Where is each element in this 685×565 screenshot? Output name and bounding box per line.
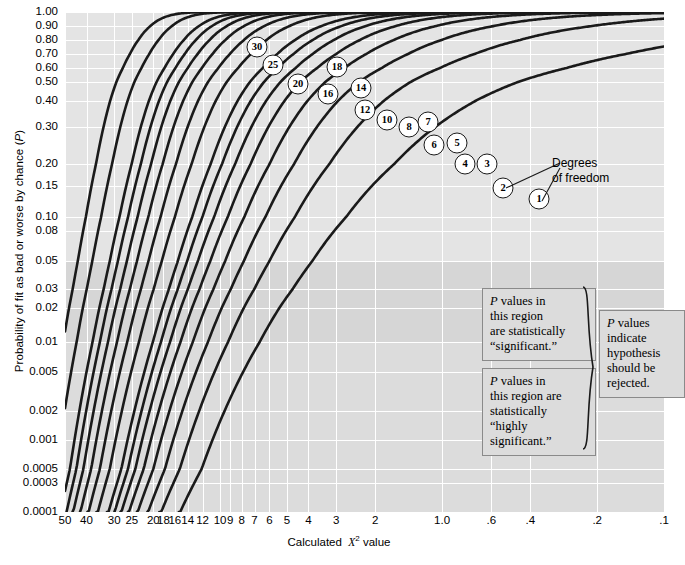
y-tick-label: 0.005 [29, 366, 58, 378]
x-tick-label: .2 [592, 514, 602, 527]
callout-significant: P values in this region are statisticall… [482, 288, 596, 361]
degrees-of-freedom-annotation: Degrees of freedom [552, 156, 609, 186]
df-bubble-18: 18 [327, 57, 348, 78]
x-tick-label: 12 [196, 514, 209, 527]
y-tick-label: 0.02 [36, 302, 58, 314]
dof-line-1: Degrees [552, 156, 609, 171]
callout-reject-line-2: hypothesis [607, 346, 677, 361]
x-tick-label: 16 [168, 514, 181, 527]
x-tick-label: 40 [80, 514, 93, 527]
callout-highly-line-1: this region are [490, 389, 588, 404]
y-tick-label: 0.90 [36, 20, 58, 32]
x-axis-tick-labels: 50403025201816141210987654321.0.6.4.2.1 [0, 514, 678, 534]
x-tick-label: 1.0 [434, 514, 450, 527]
callout-reject-line-1: indicate [607, 331, 677, 346]
callout-highly-line-0: P values in [490, 374, 588, 389]
x-tick-label: .6 [487, 514, 497, 527]
y-tick-label: 0.001 [29, 434, 58, 446]
df-bubble-3: 3 [477, 154, 498, 175]
x-tick-label: 6 [266, 514, 272, 527]
y-tick-label: 0.60 [36, 62, 58, 74]
y-tick-label: 0.10 [36, 211, 58, 223]
y-tick-label: 0.002 [29, 405, 58, 417]
y-tick-label: 0.03 [36, 283, 58, 295]
df-bubble-4: 4 [455, 154, 476, 175]
callout-reject-line-0: P values [607, 316, 677, 331]
y-tick-label: 0.05 [36, 255, 58, 267]
callout-reject-line-3: should be [607, 361, 677, 376]
y-tick-label: 0.0003 [23, 477, 58, 489]
df-bubble-6: 6 [424, 135, 445, 156]
y-tick-label: 0.08 [36, 225, 58, 237]
df-bubble-5: 5 [447, 133, 468, 154]
callout-significant-line-1: this region [490, 309, 588, 324]
x-tick-label: 3 [333, 514, 339, 527]
y-tick-label: 0.15 [36, 180, 58, 192]
callout-highly-significant: P values in this region are statisticall… [482, 368, 596, 456]
callout-reject-line-4: rejected. [607, 376, 677, 391]
x-tick-label: 5 [284, 514, 290, 527]
df-bubble-14: 14 [351, 78, 372, 99]
x-tick-label: 30 [108, 514, 121, 527]
df-bubble-16: 16 [318, 84, 339, 105]
callout-significant-line-0: P values in [490, 294, 588, 309]
x-tick-label: 9 [227, 514, 233, 527]
df-bubble-10: 10 [377, 110, 398, 131]
x-tick-label: 50 [59, 514, 72, 527]
x-tick-label: .1 [659, 514, 669, 527]
x-axis-title: Calculated Χ2 value [0, 534, 678, 548]
df-bubble-8: 8 [399, 117, 420, 138]
y-tick-label: 0.50 [36, 76, 58, 88]
callout-highly-line-4: significant.” [490, 434, 588, 449]
y-tick-label: 0.70 [36, 48, 58, 60]
x-tick-label: 8 [238, 514, 244, 527]
callout-reject-hypothesis: P values indicate hypothesis should be r… [599, 310, 685, 398]
y-tick-label: 0.30 [36, 121, 58, 133]
x-tick-label: 2 [372, 514, 378, 527]
df-bubble-12: 12 [355, 100, 376, 121]
y-axis-tick-labels: 1.000.900.800.700.600.500.400.300.200.15… [0, 0, 62, 565]
df-bubble-25: 25 [263, 55, 284, 76]
x-tick-label: 4 [305, 514, 311, 527]
x-tick-label: 10 [214, 514, 227, 527]
df-bubble-20: 20 [288, 74, 309, 95]
callout-highly-line-3: “highly [490, 419, 588, 434]
callout-significant-line-2: are statistically [490, 324, 588, 339]
callout-significant-line-3: “significant.” [490, 339, 588, 354]
x-tick-label: 25 [125, 514, 138, 527]
y-tick-label: 0.01 [36, 336, 58, 348]
y-tick-label: 0.20 [36, 158, 58, 170]
x-tick-label: .4 [526, 514, 536, 527]
y-tick-label: 0.80 [36, 34, 58, 46]
curly-brace [581, 285, 599, 453]
dof-line-2: of freedom [552, 171, 609, 186]
y-tick-label: 1.00 [36, 6, 58, 18]
callout-highly-line-2: statistically [490, 404, 588, 419]
y-tick-label: 0.40 [36, 95, 58, 107]
x-tick-label: 7 [251, 514, 257, 527]
df-bubble-30: 30 [247, 37, 268, 58]
y-tick-label: 0.0005 [23, 463, 58, 475]
df-bubble-7: 7 [418, 112, 439, 133]
x-tick-label: 14 [181, 514, 194, 527]
